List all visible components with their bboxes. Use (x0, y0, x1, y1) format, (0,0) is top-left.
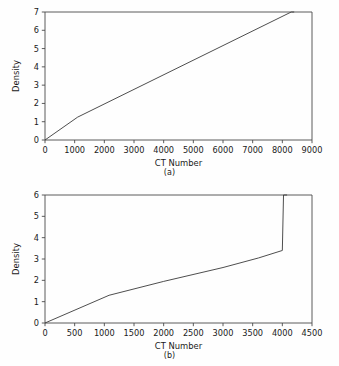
x-tick-label: 0 (42, 145, 47, 155)
x-tick-label: 3000 (124, 145, 145, 155)
plot-frame (45, 195, 312, 323)
y-tick-label: 2 (34, 275, 39, 285)
x-tick-label: 0 (42, 328, 47, 338)
chart-panel-b: 0500100015002000250030003500400045000123… (0, 183, 339, 366)
chart-b-plot: 0500100015002000250030003500400045000123… (0, 183, 339, 351)
data-series-line (45, 12, 294, 140)
x-tick-label: 1000 (94, 328, 115, 338)
x-tick-label: 9000 (302, 145, 323, 155)
x-tick-label: 500 (67, 328, 83, 338)
data-series-line (45, 195, 287, 323)
y-tick-label: 6 (34, 190, 39, 200)
x-tick-label: 7000 (242, 145, 263, 155)
y-axis-title: Density (11, 60, 21, 92)
y-tick-label: 0 (34, 135, 39, 145)
y-tick-label: 3 (34, 80, 39, 90)
x-tick-label: 2500 (183, 328, 204, 338)
y-tick-label: 2 (34, 98, 39, 108)
x-tick-label: 4000 (153, 145, 174, 155)
y-tick-label: 4 (34, 233, 39, 243)
chart-panel-a: 0100020003000400050006000700080009000012… (0, 0, 339, 183)
x-tick-label: 2000 (94, 145, 115, 155)
chart-a-plot: 0100020003000400050006000700080009000012… (0, 0, 339, 168)
x-tick-label: 6000 (213, 145, 234, 155)
y-tick-label: 1 (34, 117, 39, 127)
x-tick-label: 1000 (64, 145, 85, 155)
y-tick-label: 1 (34, 297, 39, 307)
y-axis-title: Density (11, 243, 21, 275)
y-tick-label: 3 (34, 254, 39, 264)
x-axis-title: CT Number (155, 158, 203, 168)
y-tick-label: 5 (34, 44, 39, 54)
x-tick-label: 2000 (153, 328, 174, 338)
x-tick-label: 1500 (124, 328, 145, 338)
y-tick-label: 0 (34, 318, 39, 328)
y-tick-label: 7 (34, 7, 39, 17)
plot-frame (45, 12, 312, 140)
x-tick-label: 8000 (272, 145, 293, 155)
y-tick-label: 5 (34, 211, 39, 221)
x-tick-label: 3000 (213, 328, 234, 338)
y-tick-label: 4 (34, 62, 39, 72)
x-axis-title: CT Number (155, 341, 203, 351)
x-tick-label: 4500 (302, 328, 323, 338)
panel-a-caption: (a) (0, 168, 339, 177)
y-tick-label: 6 (34, 25, 39, 35)
figure-container: 0100020003000400050006000700080009000012… (0, 0, 339, 366)
x-tick-label: 3500 (242, 328, 263, 338)
panel-b-caption: (b) (0, 351, 339, 360)
x-tick-label: 4000 (272, 328, 293, 338)
x-tick-label: 5000 (183, 145, 204, 155)
